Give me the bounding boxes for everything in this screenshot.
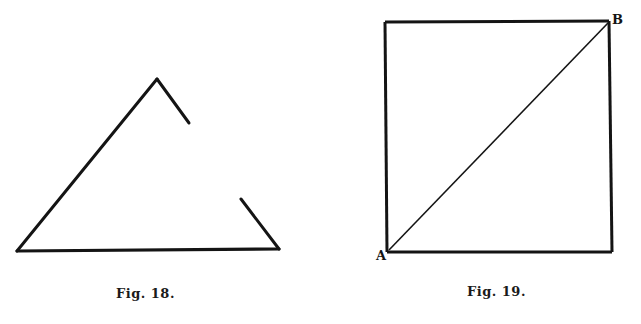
caption-fig18: Fig. 18.	[116, 287, 175, 300]
fig18-triangle	[17, 79, 279, 251]
square-right	[609, 21, 612, 252]
figure-canvas	[0, 0, 641, 324]
point-label-b: B	[612, 13, 623, 26]
square-top	[385, 21, 609, 22]
triangle-right-lower-stub	[241, 199, 279, 249]
triangle-right-upper-stub	[157, 79, 189, 123]
square-diagonal-ab	[389, 23, 608, 250]
square-left	[385, 22, 387, 252]
caption-fig19: Fig. 19.	[467, 285, 526, 298]
fig19-square	[385, 21, 612, 252]
triangle-base	[17, 249, 279, 251]
triangle-left-side	[17, 79, 157, 251]
point-label-a: A	[376, 249, 386, 262]
